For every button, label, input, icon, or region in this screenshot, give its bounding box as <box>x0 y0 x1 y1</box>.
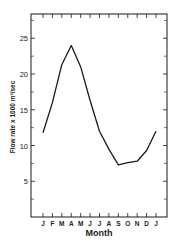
plot-border <box>31 14 167 217</box>
x-axis-ticks: JFMAMJJASONDJ <box>41 14 158 227</box>
y-tick-label: 15 <box>20 106 28 115</box>
y-tick-label: 20 <box>20 70 28 79</box>
data-series <box>43 46 156 165</box>
x-tick-label: N <box>135 220 140 227</box>
x-tick-label: A <box>69 220 74 227</box>
x-tick-label: J <box>88 220 92 227</box>
x-tick-label: O <box>125 220 130 227</box>
x-tick-label: J <box>98 220 102 227</box>
x-tick-label: J <box>154 220 158 227</box>
flow-rate-line <box>43 46 156 165</box>
x-tick-label: F <box>50 220 54 227</box>
x-tick-label: M <box>78 220 83 227</box>
x-tick-label: A <box>107 220 112 227</box>
x-axis-label: Month <box>86 228 113 238</box>
y-tick-label: 25 <box>20 34 28 43</box>
x-tick-label: J <box>41 220 45 227</box>
plot-frame <box>31 14 167 217</box>
line-chart: 510152025 JFMAMJJASONDJ Month Flow rate … <box>0 0 178 247</box>
x-tick-label: S <box>116 220 121 227</box>
y-axis-label: Flow rate x 1000 m³/sec <box>9 80 16 153</box>
y-tick-label: 10 <box>20 142 28 151</box>
x-tick-label: D <box>144 220 149 227</box>
y-tick-label: 5 <box>24 177 28 186</box>
x-tick-label: M <box>59 220 64 227</box>
